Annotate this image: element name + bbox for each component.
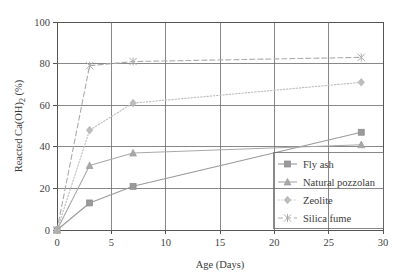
x-tick-label: 10 <box>160 237 171 248</box>
y-axis-title: Reacted Ca(OH)2 (%) <box>13 79 27 172</box>
x-tick-label: 25 <box>323 237 334 248</box>
line-chart: 020406080100 051015202530 Age (Days) Rea… <box>0 0 410 279</box>
chart-legend: Fly ashNatural pozzolanZeoliteSilica fum… <box>273 152 383 228</box>
legend-label: Silica fume <box>303 213 351 224</box>
y-tick-label: 40 <box>40 141 51 152</box>
chart-container: 020406080100 051015202530 Age (Days) Rea… <box>0 0 410 279</box>
data-point-marker <box>284 196 290 204</box>
x-tick-label: 30 <box>378 237 389 248</box>
legend-item-zeolite[interactable]: Zeolite <box>278 195 333 206</box>
legend-label: Zeolite <box>303 195 333 206</box>
data-point-marker <box>86 126 92 134</box>
data-point-marker <box>358 129 364 135</box>
legend-label: Natural pozzolan <box>303 177 376 188</box>
y-tick-label: 60 <box>40 100 51 111</box>
data-point-marker <box>285 161 291 167</box>
y-tick-label: 80 <box>40 58 51 69</box>
series-zeolite <box>54 79 365 234</box>
legend-label: Fly ash <box>303 159 334 170</box>
y-tick-label: 0 <box>45 225 50 236</box>
x-tick-label: 20 <box>269 237 280 248</box>
x-tick-label: 5 <box>109 237 114 248</box>
series-silica-fume <box>53 53 364 234</box>
series-line <box>57 82 361 230</box>
x-tick-label: 0 <box>54 237 59 248</box>
data-point-marker <box>358 79 364 87</box>
data-point-marker <box>130 99 136 107</box>
x-tick-label: 15 <box>215 237 226 248</box>
svg-text:Reacted Ca(OH)2 (%): Reacted Ca(OH)2 (%) <box>13 79 27 172</box>
legend-item-silica-fume[interactable]: Silica fume <box>278 213 351 224</box>
y-tick-label: 100 <box>34 17 50 28</box>
x-axis-title: Age (Days) <box>196 259 245 271</box>
data-point-marker <box>130 183 136 189</box>
x-axis-ticks: 051015202530 <box>54 230 388 248</box>
legend-item-natural-pozzolan[interactable]: Natural pozzolan <box>278 177 376 188</box>
series-layer <box>53 53 364 234</box>
y-axis-ticks: 020406080100 <box>34 17 57 236</box>
legend-item-fly-ash[interactable]: Fly ash <box>278 159 334 170</box>
data-point-marker <box>87 200 93 206</box>
vertical-gridlines <box>111 22 328 230</box>
y-tick-label: 20 <box>40 183 51 194</box>
